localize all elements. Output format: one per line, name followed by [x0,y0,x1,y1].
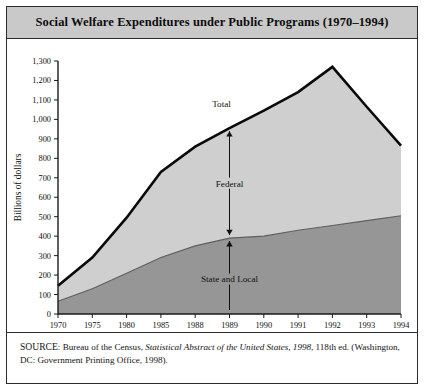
x-tick-label: 1993 [358,321,375,330]
page-title: Social Welfare Expenditures under Public… [36,15,389,30]
x-tick-label: 1985 [153,321,170,330]
x-tick-label: 1992 [324,321,341,330]
y-tick-label: 200 [38,271,51,280]
y-tick-label: 0 [47,310,51,319]
x-tick-label: 1994 [393,321,411,330]
x-tick-label: 1980 [118,321,135,330]
source-text-1: : Bureau of the Census, [58,342,145,352]
x-tick-label: 1990 [255,321,272,330]
y-tick-label: 300 [38,252,51,261]
x-tick-label: 1975 [84,321,101,330]
x-tick-label: 1988 [187,321,204,330]
area-chart-svg: 01002003004005006007008009001,0001,1001,… [7,39,419,333]
annotation-total: Total [212,99,231,109]
y-tick-label: 1,000 [32,115,51,124]
x-tick-label: 1991 [290,321,307,330]
y-tick-label: 1,300 [32,57,51,66]
y-tick-label: 800 [38,154,51,163]
y-tick-label: 1,200 [32,76,51,85]
chart-plot-area: 01002003004005006007008009001,0001,1001,… [7,39,417,333]
y-tick-label: 900 [38,135,51,144]
y-axis-title: Billions of dollars [13,153,23,221]
y-tick-label: 600 [38,193,51,202]
figure-container: Social Welfare Expenditures under Public… [6,6,418,384]
x-tick-label: 1970 [50,321,67,330]
annotation-state-local: State and Local [201,274,259,284]
figure-source-band: SOURCE: Bureau of the Census, Statistica… [7,332,417,383]
source-note: SOURCE: Bureau of the Census, Statistica… [20,340,404,367]
y-tick-label: 100 [38,291,51,300]
source-title-italic: Statistical Abstract of the United State… [145,342,311,352]
x-tick-label: 1989 [221,321,238,330]
y-tick-label: 1,100 [32,96,51,105]
y-tick-label: 700 [38,174,51,183]
source-label: SOURCE [20,341,58,352]
figure-title-band: Social Welfare Expenditures under Public… [7,7,417,39]
annotation-federal: Federal [216,179,244,189]
y-tick-label: 500 [38,213,51,222]
y-tick-label: 400 [38,232,51,241]
